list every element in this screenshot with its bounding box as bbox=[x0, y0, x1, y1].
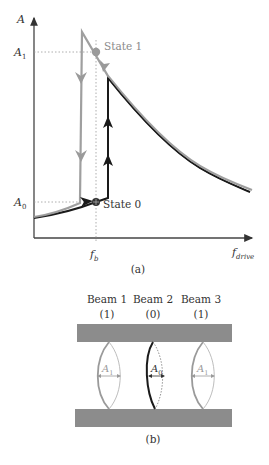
beam2-state: (0) bbox=[146, 308, 161, 320]
beam1-name: Beam 1 bbox=[87, 293, 127, 305]
fb-tick-label: fb bbox=[89, 248, 99, 263]
beam2-name: Beam 2 bbox=[133, 293, 173, 305]
x-axis-label: fdrive bbox=[231, 246, 254, 261]
beam3-name: Beam 3 bbox=[181, 293, 221, 305]
beam1-state: (1) bbox=[100, 308, 115, 320]
top-plate bbox=[77, 324, 232, 342]
caption-a: (a) bbox=[131, 263, 145, 275]
beam1-amp-label: A1 bbox=[101, 363, 113, 377]
beam1: A1 bbox=[97, 342, 121, 409]
beam2: A0 bbox=[147, 342, 165, 409]
figure-b: Beam 1 Beam 2 Beam 3 (1) (0) (1) A1 A0 bbox=[75, 293, 232, 445]
figure-a: A A1 A0 State 1 State 0 fb fdrive (a) bbox=[13, 13, 254, 275]
black-up-sweep-curve bbox=[34, 78, 250, 218]
beam3-state: (1) bbox=[194, 308, 209, 320]
beam3-amp-label: A1 bbox=[196, 363, 208, 377]
bottom-plate bbox=[75, 409, 232, 427]
state1-label: State 1 bbox=[104, 40, 142, 52]
state0-label: State 0 bbox=[103, 198, 141, 210]
beam3: A1 bbox=[191, 342, 215, 409]
caption-b: (b) bbox=[146, 433, 161, 445]
a1-tick-label: A1 bbox=[13, 46, 26, 61]
gray-down-sweep-curve bbox=[34, 32, 252, 217]
state1-marker bbox=[92, 48, 100, 56]
y-axis-label: A bbox=[16, 13, 25, 26]
a0-tick-label: A0 bbox=[13, 196, 26, 211]
hysteresis-diagram: A A1 A0 State 1 State 0 fb fdrive (a) Be… bbox=[0, 0, 269, 465]
